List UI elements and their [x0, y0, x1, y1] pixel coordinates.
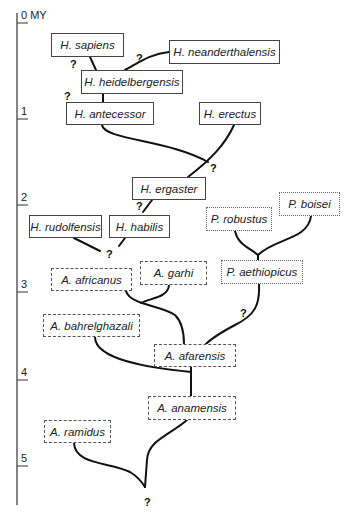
uncertainty-mark: ? [210, 162, 217, 174]
species-label: H. heidelbergensis [84, 76, 179, 88]
species-label: H. erectus [204, 108, 256, 120]
uncertainty-mark: ? [136, 200, 143, 212]
species-box-africanus: A. africanus [51, 268, 132, 291]
species-label: H. habilis [116, 221, 163, 233]
species-box-heidelbergensis: H. heidelbergensis [81, 70, 183, 94]
species-label: A. ramidus [50, 426, 105, 438]
species-box-boisei: P. boisei [279, 192, 340, 216]
axis-ticks [17, 23, 28, 466]
species-box-aethiopicus: P. aethiopicus [221, 260, 303, 284]
species-box-anamensis: A. anamensis [148, 396, 236, 420]
tick-label-4: 4 [21, 366, 27, 378]
species-box-rudolfensis: H. rudolfensis [29, 215, 102, 238]
species-box-habilis: H. habilis [109, 215, 170, 238]
uncertainty-mark: ? [136, 52, 143, 64]
species-label: H. neanderthalensis [173, 46, 275, 58]
species-box-ergaster: H. ergaster [132, 177, 206, 200]
species-label: H. sapiens [60, 39, 114, 51]
tick-label-3: 3 [21, 278, 27, 290]
tick-label-2: 2 [21, 191, 27, 203]
species-box-sapiens: H. sapiens [51, 33, 124, 57]
tick-label-5: 5 [21, 452, 27, 464]
species-label: P. robustus [211, 213, 268, 225]
species-box-afarensis: A. afarensis [154, 344, 236, 367]
species-box-ramidus: A. ramidus [44, 420, 111, 443]
species-label: P. aethiopicus [227, 266, 298, 278]
species-label: P. boisei [288, 198, 331, 210]
species-label: A. bahrelghazali [50, 320, 132, 332]
species-label: A. anamensis [157, 402, 227, 414]
species-label: A. africanus [61, 274, 122, 286]
species-box-neanderthalensis: H. neanderthalensis [169, 40, 280, 64]
tick-label-0: 0 MY [21, 9, 47, 21]
species-box-robustus: P. robustus [206, 207, 272, 231]
species-box-garhi: A. garhi [140, 261, 207, 285]
species-label: A. afarensis [165, 350, 226, 362]
uncertainty-mark: ? [144, 496, 151, 508]
species-box-antecessor: H. antecessor [66, 102, 154, 125]
species-box-erectus: H. erectus [199, 102, 261, 125]
species-label: H. antecessor [75, 108, 146, 120]
species-label: H. rudolfensis [30, 221, 100, 233]
species-box-bahrelghazali: A. bahrelghazali [43, 314, 140, 337]
species-label: A. garhi [154, 267, 194, 279]
uncertainty-mark: ? [70, 58, 77, 70]
tick-label-1: 1 [21, 105, 27, 117]
uncertainty-mark: ? [64, 90, 71, 102]
uncertainty-mark: ? [240, 307, 247, 319]
species-label: H. ergaster [141, 183, 198, 195]
uncertainty-mark: ? [106, 248, 113, 260]
